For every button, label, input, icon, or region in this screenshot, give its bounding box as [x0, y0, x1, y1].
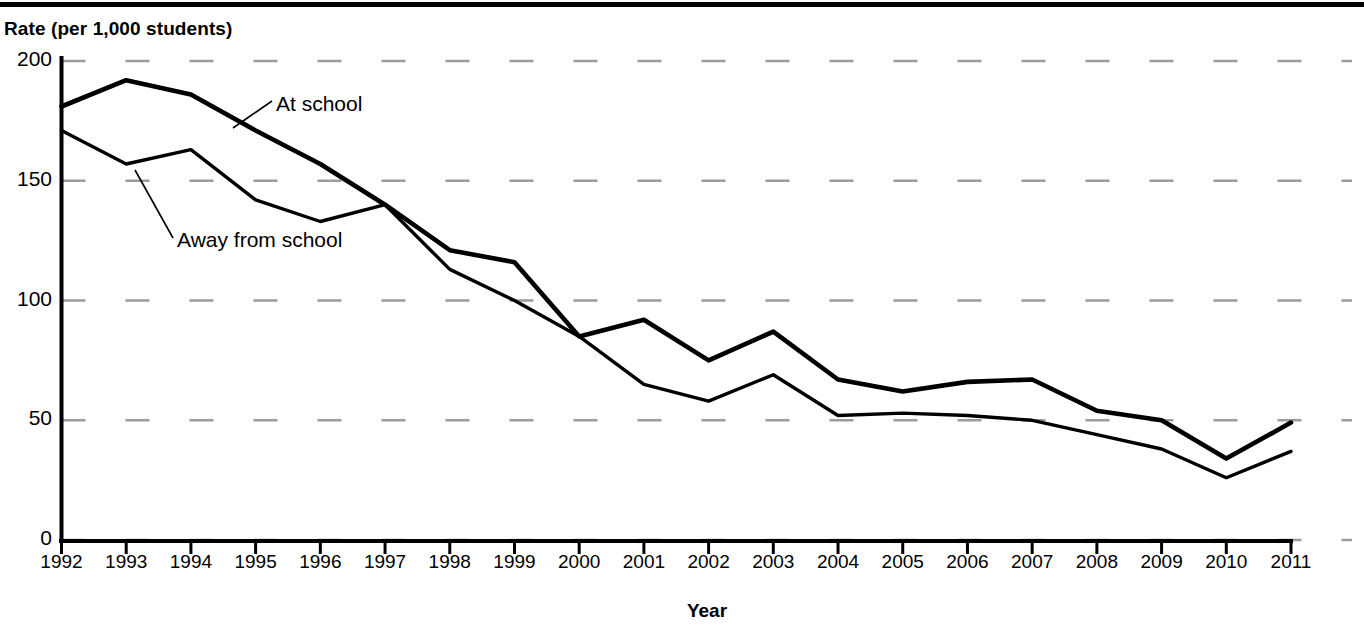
x-axis-title-text: Year	[687, 600, 727, 622]
x-axis-tick-label: 2010	[1194, 551, 1258, 573]
x-axis-tick-label: 2004	[806, 551, 870, 573]
chart-figure: Rate (per 1,000 students) 050100150200 1…	[0, 0, 1364, 637]
series-line-away-from-school	[62, 131, 1292, 478]
x-axis-tick-label: 2003	[741, 551, 805, 573]
x-axis-tick-label: 2000	[547, 551, 611, 573]
y-axis-tick-label: 50	[0, 406, 52, 430]
x-axis-tick-label: 1999	[482, 551, 546, 573]
series-label-away-from-school: Away from school	[177, 228, 342, 252]
annotation-leader-lines	[135, 101, 272, 238]
x-axis-tick-label: 1998	[418, 551, 482, 573]
y-axis-tick-label: 100	[0, 287, 52, 311]
x-axis-tick-label: 1994	[159, 551, 223, 573]
away-from-school-leader-line	[135, 170, 173, 238]
x-axis-tick-label: 2009	[1130, 551, 1194, 573]
x-axis-tick-label: 1996	[288, 551, 352, 573]
x-axis-tick-label: 1997	[353, 551, 417, 573]
x-axis-tick-label: 2001	[612, 551, 676, 573]
axis-lines-group	[59, 56, 1293, 542]
series-label-at-school: At school	[276, 92, 362, 116]
gridlines-group	[62, 61, 1353, 540]
x-axis-tick-label: 1992	[30, 551, 94, 573]
x-axis-tick-label: 1995	[224, 551, 288, 573]
x-axis-tick-label: 2002	[677, 551, 741, 573]
x-axis-tick-label: 2008	[1065, 551, 1129, 573]
x-axis-tick-label: 2011	[1259, 551, 1323, 573]
at-school-leader-line	[233, 101, 272, 128]
x-axis-tick-label: 1993	[94, 551, 158, 573]
y-axis-tick-label: 200	[0, 47, 52, 71]
y-axis-tick-label: 150	[0, 167, 52, 191]
y-axis-tick-label: 0	[0, 526, 52, 550]
line-chart-plot	[0, 0, 1364, 637]
x-axis-tick-label: 2005	[871, 551, 935, 573]
x-axis-tick-label: 2007	[1000, 551, 1064, 573]
data-series-group	[62, 80, 1292, 478]
x-axis-tick-label: 2006	[935, 551, 999, 573]
series-line-at-school	[62, 80, 1292, 458]
x-axis-title: Year	[0, 600, 1364, 622]
